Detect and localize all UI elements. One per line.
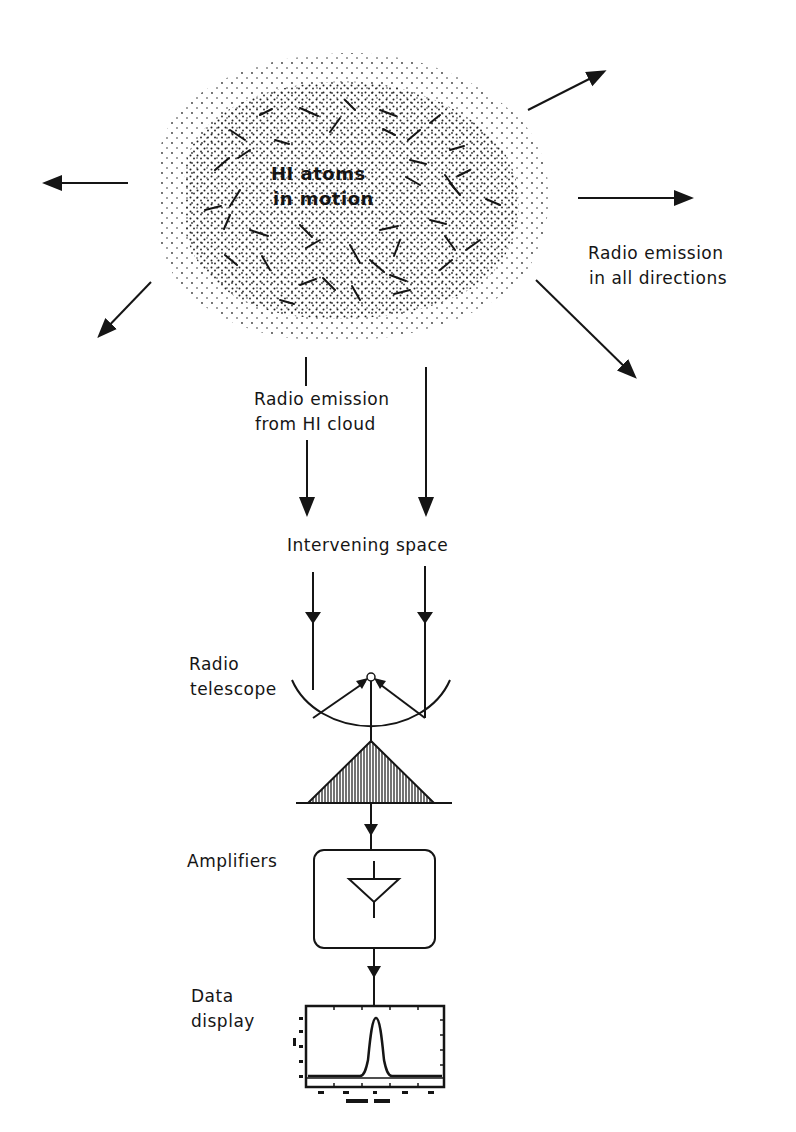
radio-telescope-icon bbox=[292, 673, 452, 803]
cloud-label-line1: HI atoms bbox=[271, 163, 366, 185]
amplifier-box-icon bbox=[314, 850, 435, 948]
amplifiers-label: Amplifiers bbox=[187, 850, 277, 872]
intervening-space-label: Intervening space bbox=[287, 534, 448, 556]
cloud-label-line2: in motion bbox=[273, 188, 374, 210]
spectrum-plot-icon bbox=[293, 1006, 444, 1103]
all-directions-label-line1: Radio emission bbox=[588, 242, 724, 264]
arrow-down-left-icon bbox=[100, 282, 151, 335]
diagram-canvas bbox=[0, 0, 796, 1132]
telescope-label-line2: telescope bbox=[190, 678, 277, 700]
all-directions-label-line2: in all directions bbox=[589, 267, 727, 289]
cloud-emission-label-line2: from HI cloud bbox=[255, 413, 376, 435]
cloud-emission-label-line1: Radio emission bbox=[254, 388, 390, 410]
telescope-label-line1: Radio bbox=[189, 653, 239, 675]
arrow-down-right-icon bbox=[536, 280, 634, 376]
data-display-label-line2: display bbox=[191, 1010, 255, 1032]
arrow-up-right-icon bbox=[528, 72, 603, 110]
data-display-label-line1: Data bbox=[191, 985, 234, 1007]
